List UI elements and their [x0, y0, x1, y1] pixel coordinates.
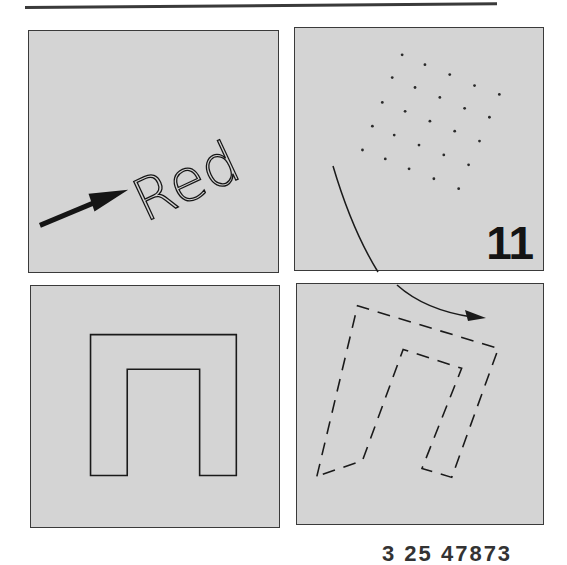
top-rule [25, 2, 497, 9]
step-number: 11 [486, 220, 533, 266]
solid-arrow-icon [40, 190, 128, 226]
panel-bottom-right [296, 283, 544, 525]
panel-top-right: 11 [294, 27, 544, 271]
panel-top-left: Red [28, 30, 279, 273]
dashed-arch-shape [297, 284, 543, 524]
red-label: Red [123, 128, 250, 235]
panel-bottom-left [30, 285, 280, 528]
solid-arch-shape [31, 286, 279, 527]
footer-text: 3 25 47873 [382, 541, 512, 565]
dot-grid-points [361, 53, 501, 190]
panel-top-left-drawing: Red [29, 31, 278, 272]
